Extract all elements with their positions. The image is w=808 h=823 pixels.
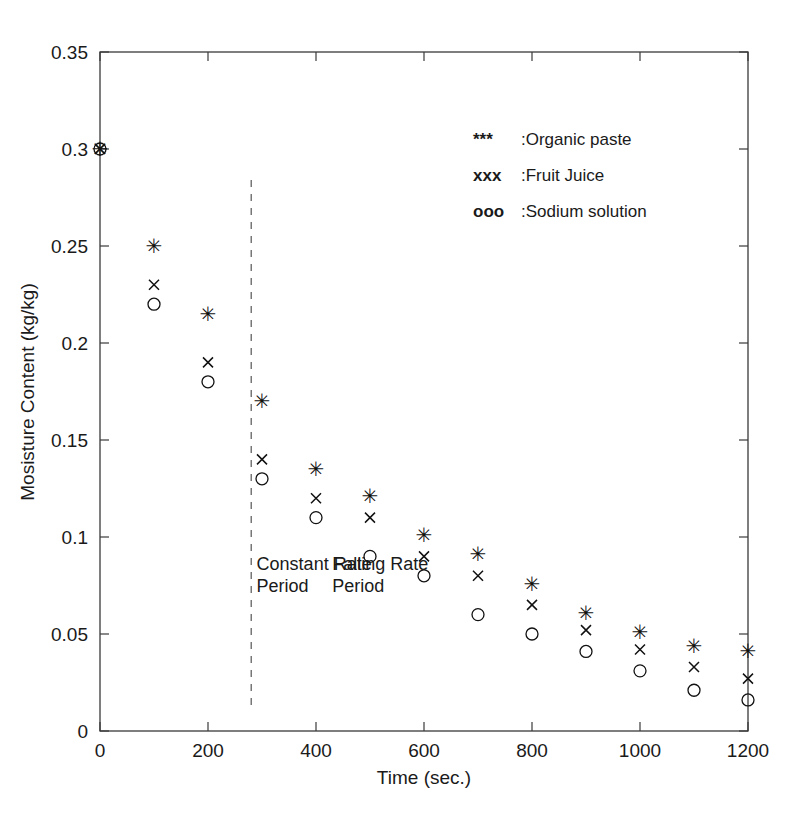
- point-star-6: ✳: [416, 523, 433, 547]
- point-star-5: ✳: [362, 484, 379, 508]
- chart-figure: 00.050.10.150.20.250.30.35 0200400600800…: [0, 0, 808, 823]
- scatter-plot: 00.050.10.150.20.250.30.35 0200400600800…: [0, 0, 808, 823]
- y-tick-label-6: 0.3: [62, 139, 88, 160]
- point-star-8: ✳: [524, 572, 541, 596]
- x-tick-label-2: 400: [300, 740, 332, 761]
- legend-label-2: :Sodium solution: [521, 202, 647, 221]
- constant-rate-line2: Period: [257, 576, 309, 596]
- y-tick-label-2: 0.1: [62, 527, 88, 548]
- point-star-12: ✳: [740, 639, 757, 663]
- point-star-10: ✳: [632, 620, 649, 644]
- x-tick-label-0: 0: [95, 740, 106, 761]
- legend-label-1: :Fruit Juice: [521, 166, 604, 185]
- y-tick-label-5: 0.25: [51, 236, 88, 257]
- legend-symbol-2: ooo: [473, 202, 504, 221]
- y-tick-label-7: 0.35: [51, 42, 88, 63]
- y-tick-label-4: 0.2: [62, 333, 88, 354]
- x-tick-label-1: 200: [192, 740, 224, 761]
- falling-rate-line1: Falling Rate: [332, 554, 428, 574]
- x-tick-label-6: 1200: [727, 740, 769, 761]
- y-tick-label-3: 0.15: [51, 430, 88, 451]
- point-star-4: ✳: [308, 457, 325, 481]
- legend-symbol-0: ***: [473, 130, 493, 149]
- falling-rate-line2: Period: [332, 576, 384, 596]
- legend-label-0: :Organic paste: [521, 130, 632, 149]
- y-tick-label-0: 0: [77, 721, 88, 742]
- legend-symbol-1: xxx: [473, 166, 502, 185]
- figure-background: [0, 0, 808, 823]
- point-star-11: ✳: [686, 634, 703, 658]
- x-tick-label-5: 1000: [619, 740, 661, 761]
- x-tick-label-4: 800: [516, 740, 548, 761]
- point-star-2: ✳: [200, 302, 217, 326]
- y-axis-title: Mosisture Content (kg/kg): [17, 283, 38, 501]
- x-axis-title: Time (sec.): [377, 767, 471, 788]
- x-tick-label-3: 600: [408, 740, 440, 761]
- point-star-1: ✳: [146, 234, 163, 258]
- point-star-9: ✳: [578, 601, 595, 625]
- y-tick-label-1: 0.05: [51, 624, 88, 645]
- point-star-3: ✳: [254, 389, 271, 413]
- point-star-7: ✳: [470, 542, 487, 566]
